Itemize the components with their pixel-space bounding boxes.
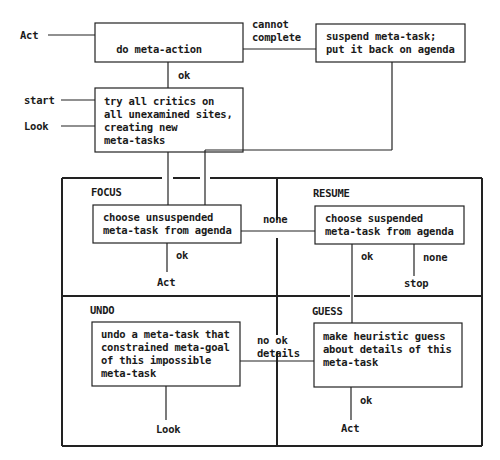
box-undo-text: undo a meta-task that constrained meta-g… [101,328,230,380]
label-no-ok-details: no ok details [257,334,300,360]
label-act-focus: Act [157,276,175,289]
label-ok-focus: ok [176,249,188,262]
label-ok-top: ok [178,69,190,82]
label-stop: stop [404,277,429,290]
label-look-undo: Look [156,423,181,436]
region-resume-title: RESUME [313,187,350,200]
label-ok-guess: ok [360,394,372,407]
region-undo-title: UNDO [90,304,115,317]
entry-start: start [24,94,55,107]
label-none-resume: none [423,251,448,264]
region-focus-title: FOCUS [91,186,122,199]
box-try-critics-text: try all critics on all unexamined sites,… [104,95,233,147]
box-resume-text: choose suspended meta-task from agenda [325,212,454,238]
label-ok-resume: ok [361,250,373,263]
label-cannot-complete: cannot complete [252,18,301,44]
box-do-meta-action-text: do meta-action [104,30,202,56]
region-guess-title: GUESS [312,305,343,318]
box-guess-text: make heuristic guess about details of th… [323,330,452,369]
label-none-focus-resume: none [263,213,288,226]
entry-look: Look [24,120,49,133]
entry-act: Act [20,29,38,42]
label-act-guess: Act [341,422,359,435]
box-focus-text: choose unsuspended meta-task from agenda [103,211,232,237]
box-suspend-text: suspend meta-task; put it back on agenda [326,30,455,56]
